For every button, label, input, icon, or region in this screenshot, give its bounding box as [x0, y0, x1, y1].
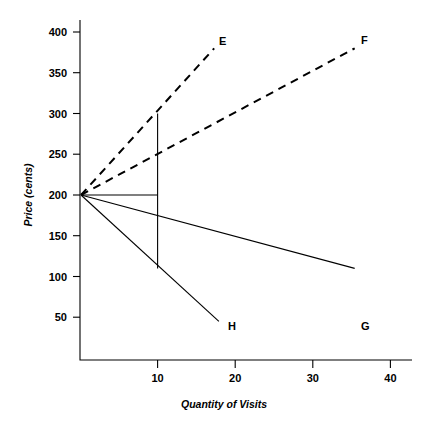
chart-container: 400 350 300 250 200 150 100 50 10 20 30 …: [0, 0, 424, 431]
price-quantity-line-chart: 400 350 300 250 200 150 100 50 10 20 30 …: [0, 0, 424, 431]
series-label-e: E: [219, 35, 226, 47]
y-tick-label-300: 300: [49, 108, 67, 120]
series-label-g: G: [361, 320, 370, 332]
y-tick-label-250: 250: [49, 148, 67, 160]
x-tick-label-30: 30: [307, 372, 319, 384]
y-tick-label-150: 150: [49, 230, 67, 242]
x-tick-label-40: 40: [384, 372, 396, 384]
reference-lines: [81, 114, 158, 269]
x-tick-label-20: 20: [229, 372, 241, 384]
x-axis-title: Quantity of Visits: [181, 398, 267, 410]
y-tick-label-50: 50: [55, 311, 67, 323]
series-line-e: [81, 48, 214, 195]
y-tick-labels: 400 350 300 250 200 150 100 50: [49, 26, 67, 323]
x-tick-label-10: 10: [151, 372, 163, 384]
y-tick-marks: [73, 32, 80, 317]
y-tick-label-100: 100: [49, 271, 67, 283]
series-group: [81, 48, 355, 321]
axes-group: [80, 20, 412, 360]
x-tick-labels: 10 20 30 40: [151, 372, 396, 384]
series-label-f: F: [361, 34, 368, 46]
series-line-f: [81, 48, 355, 195]
y-tick-label-400: 400: [49, 26, 67, 38]
axis-lines: [80, 20, 412, 360]
series-label-h: H: [228, 320, 236, 332]
series-labels: E F G H: [219, 34, 370, 332]
y-tick-label-200: 200: [49, 189, 67, 201]
x-tick-marks: [158, 360, 391, 368]
y-tick-label-350: 350: [49, 67, 67, 79]
y-axis-title: Price (cents): [22, 163, 34, 227]
series-line-g: [81, 195, 355, 268]
